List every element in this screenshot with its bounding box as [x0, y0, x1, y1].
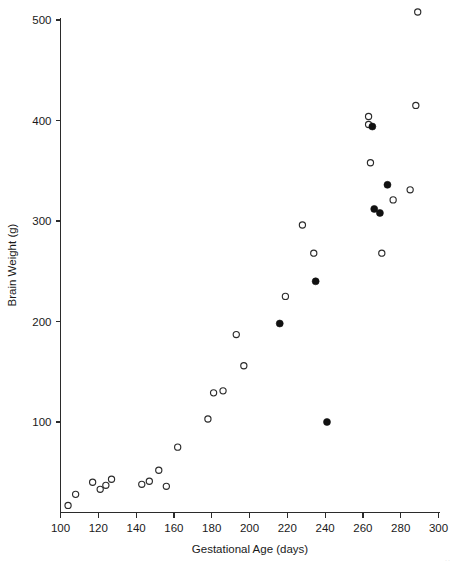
data-point-filled	[376, 209, 383, 216]
axes-group	[61, 18, 441, 513]
data-point-open	[299, 222, 305, 228]
data-point-open	[175, 444, 181, 450]
y-tick-label: 100	[32, 416, 51, 428]
x-tick-label: 240	[316, 522, 335, 534]
data-point-open	[146, 478, 152, 484]
x-axis-title: Gestational Age (days)	[192, 543, 309, 555]
data-point-filled	[276, 320, 283, 327]
data-point-open	[390, 197, 396, 203]
data-point-open	[65, 502, 71, 508]
data-point-open	[139, 481, 145, 487]
x-tick-label: 280	[391, 522, 410, 534]
data-markers-group	[65, 9, 421, 509]
y-axis-title: Brain Weight (g)	[6, 223, 18, 306]
corner-artifact: ··	[445, 557, 451, 563]
data-point-open	[97, 486, 103, 492]
data-point-open	[108, 476, 114, 482]
data-point-open	[163, 483, 169, 489]
data-point-open	[205, 416, 211, 422]
data-point-open	[365, 113, 371, 119]
data-point-open	[311, 250, 317, 256]
x-tick-label: 120	[89, 522, 108, 534]
data-point-open	[413, 102, 419, 108]
data-point-open	[379, 250, 385, 256]
plot-canvas: 100200300400500 100120140160180200220240…	[0, 0, 455, 566]
x-axis-ticks: 100120140160180200220240260280300	[51, 513, 448, 535]
data-point-open	[233, 331, 239, 337]
x-tick-label: 300	[429, 522, 448, 534]
x-tick-label: 160	[164, 522, 183, 534]
x-tick-label: 140	[127, 522, 146, 534]
data-point-open	[367, 160, 373, 166]
x-tick-label: 200	[240, 522, 259, 534]
data-point-open	[407, 187, 413, 193]
x-tick-label: 100	[51, 522, 70, 534]
data-point-filled	[323, 419, 330, 426]
data-point-open	[90, 479, 96, 485]
data-point-open	[103, 482, 109, 488]
x-tick-label: 180	[202, 522, 221, 534]
y-tick-label: 300	[32, 215, 51, 227]
data-point-open	[220, 388, 226, 394]
y-tick-label: 200	[32, 316, 51, 328]
y-tick-label: 500	[32, 14, 51, 26]
x-tick-label: 220	[278, 522, 297, 534]
y-axis-ticks: 100200300400500	[32, 14, 60, 428]
data-point-open	[156, 467, 162, 473]
data-point-filled	[384, 181, 391, 188]
data-point-open	[282, 293, 288, 299]
scatter-plot-figure: 100200300400500 100120140160180200220240…	[0, 0, 455, 566]
y-tick-label: 400	[32, 115, 51, 127]
data-point-open	[73, 491, 79, 497]
x-tick-label: 260	[353, 522, 372, 534]
data-point-open	[210, 390, 216, 396]
data-point-open	[415, 9, 421, 15]
data-point-filled	[312, 278, 319, 285]
data-point-open	[241, 363, 247, 369]
data-point-filled	[369, 123, 376, 130]
